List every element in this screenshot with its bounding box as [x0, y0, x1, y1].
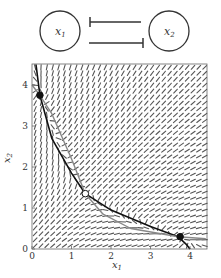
stable-fixed-point: [177, 233, 184, 240]
y-tick-label: 3: [22, 121, 28, 131]
field-arrow: [52, 154, 53, 159]
node-x1-label: x1: [55, 25, 66, 39]
x-tick-label: 3: [148, 251, 154, 261]
y-tick-label: 2: [22, 162, 28, 172]
figure: x1 x2 0123401234 x1 x2: [0, 0, 221, 278]
x-axis-label: x1: [112, 259, 122, 272]
unstable-fixed-point: [82, 190, 89, 197]
field-arrow: [47, 130, 48, 135]
y-tick-label: 4: [22, 80, 28, 90]
field-arrow: [47, 136, 48, 141]
network-diagram: x1 x2: [40, 11, 189, 51]
node-x2-label: x2: [164, 25, 175, 39]
field-arrow: [120, 228, 125, 229]
y-tick-label: 0: [22, 244, 28, 254]
stable-fixed-point: [37, 92, 44, 99]
y-tick-label: 1: [22, 203, 28, 213]
field-arrow: [138, 234, 143, 235]
x-tick-label: 1: [69, 251, 75, 261]
x-tick-label: 4: [187, 251, 193, 261]
x-tick-label: 0: [29, 251, 35, 261]
phase-plane: 0123401234 x1 x2: [1, 64, 207, 272]
repression-arrow-x2-to-x1: [90, 17, 141, 27]
y-axis-label: x2: [1, 152, 14, 163]
field-arrow: [138, 228, 143, 229]
field-arrow: [185, 239, 190, 240]
repression-arrow-x1-to-x2: [89, 38, 143, 48]
